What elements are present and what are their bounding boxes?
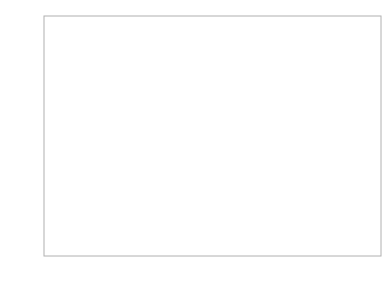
- plot-background: [0, 0, 386, 298]
- plot-canvas: [0, 0, 386, 298]
- probability-plot: [0, 0, 386, 298]
